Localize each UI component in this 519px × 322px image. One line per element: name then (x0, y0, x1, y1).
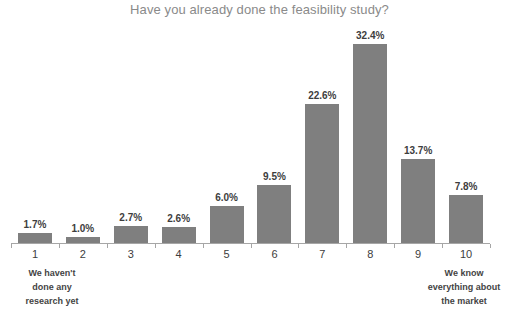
bar (401, 159, 435, 243)
x-tick-label: 5 (203, 248, 251, 260)
bar-value-label: 9.5% (251, 171, 299, 182)
x-tick-label: 7 (298, 248, 346, 260)
bars-layer: 1.7%1.0%2.7%2.6%6.0%9.5%22.6%32.4%13.7%7… (0, 22, 519, 243)
plot-area: 1.7%1.0%2.7%2.6%6.0%9.5%22.6%32.4%13.7%7… (0, 22, 519, 244)
bar (162, 227, 196, 243)
bar-value-label: 13.7% (394, 145, 442, 156)
bar-value-label: 32.4% (346, 30, 394, 41)
x-tick-label: 9 (394, 248, 442, 260)
bar (257, 185, 291, 243)
x-tick-label: 10 (442, 248, 490, 260)
annotation-high-end: We know everything about the market (412, 266, 516, 308)
bar-value-label: 2.6% (155, 213, 203, 224)
annotation-high-line-2: everything about (412, 280, 516, 294)
bar (114, 226, 148, 243)
bar-value-label: 2.7% (107, 212, 155, 223)
annotation-low-line-2: done any (2, 280, 102, 294)
bar-value-label: 22.6% (298, 90, 346, 101)
bar-value-label: 6.0% (203, 192, 251, 203)
bar-value-label: 1.0% (59, 223, 107, 234)
annotation-low-line-3: research yet (2, 294, 102, 308)
chart-title: Have you already done the feasibility st… (0, 2, 519, 17)
annotation-high-line-1: We know (412, 266, 516, 280)
bar-value-label: 7.8% (442, 181, 490, 192)
x-tick-label: 6 (251, 248, 299, 260)
bar (18, 233, 52, 243)
bar (305, 104, 339, 243)
bar-chart: Have you already done the feasibility st… (0, 0, 519, 322)
x-tick-label: 4 (155, 248, 203, 260)
bar-value-label: 1.7% (11, 219, 59, 230)
annotation-low-line-1: We haven't (2, 266, 102, 280)
bar (210, 206, 244, 243)
x-tick-label: 1 (11, 248, 59, 260)
annotation-high-line-3: the market (412, 294, 516, 308)
x-axis-category-labels: 12345678910 (0, 248, 519, 264)
bar (449, 195, 483, 243)
x-tick-label: 8 (346, 248, 394, 260)
annotation-low-end: We haven't done any research yet (2, 266, 102, 308)
bar (353, 44, 387, 243)
x-tick-label: 2 (59, 248, 107, 260)
x-tick-label: 3 (107, 248, 155, 260)
